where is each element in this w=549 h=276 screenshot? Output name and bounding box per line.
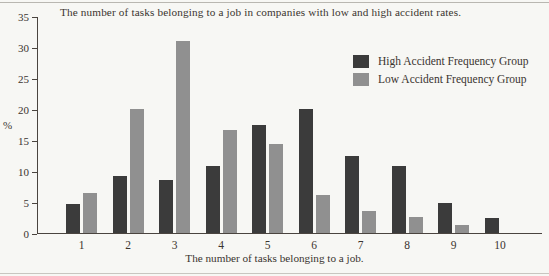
y-axis-tick-label: 25 bbox=[18, 73, 29, 85]
x-axis-tick-label: 4 bbox=[218, 239, 224, 251]
y-axis-tick-mark bbox=[32, 203, 37, 204]
bar-low-1 bbox=[83, 193, 97, 233]
bar-low-2 bbox=[130, 109, 144, 233]
y-axis-tick-label: 0 bbox=[24, 228, 30, 240]
bar-low-5 bbox=[269, 144, 283, 233]
bar-low-9 bbox=[455, 225, 469, 233]
legend-swatch-icon bbox=[353, 55, 369, 68]
x-axis-tick-label: 8 bbox=[404, 239, 410, 251]
bar-low-3 bbox=[176, 41, 190, 233]
bar-high-6 bbox=[299, 109, 313, 233]
x-axis-tick-label: 6 bbox=[311, 239, 317, 251]
bar-high-4 bbox=[206, 166, 220, 233]
y-axis-tick-mark bbox=[32, 17, 37, 18]
x-axis-tick-label: 2 bbox=[125, 239, 131, 251]
bar-high-3 bbox=[159, 180, 173, 233]
legend-label: High Accident Frequency Group bbox=[378, 55, 528, 67]
bar-low-7 bbox=[362, 211, 376, 233]
bar-group bbox=[392, 166, 423, 233]
y-axis-tick-label: 35 bbox=[18, 11, 29, 23]
x-axis-line bbox=[37, 233, 542, 234]
bar-high-10 bbox=[485, 218, 499, 234]
page-rule-bottom bbox=[0, 273, 549, 274]
bar-group bbox=[299, 109, 330, 233]
y-axis-title: % bbox=[3, 119, 12, 131]
y-axis-tick-mark bbox=[32, 234, 37, 235]
y-axis-line bbox=[37, 17, 38, 234]
bar-high-8 bbox=[392, 166, 406, 233]
x-axis-tick-label: 5 bbox=[265, 239, 271, 251]
bar-group bbox=[159, 41, 190, 233]
y-axis-tick-label: 30 bbox=[18, 42, 29, 54]
bar-group bbox=[66, 193, 97, 233]
chart-figure: The number of tasks belonging to a job i… bbox=[0, 0, 549, 276]
y-axis-tick-mark bbox=[32, 48, 37, 49]
y-axis-tick-label: 10 bbox=[18, 166, 29, 178]
legend-item: High Accident Frequency Group bbox=[353, 54, 528, 68]
bar-low-8 bbox=[409, 217, 423, 233]
bar-low-4 bbox=[223, 130, 237, 233]
x-axis-tick-label: 9 bbox=[451, 239, 457, 251]
y-axis-tick-mark bbox=[32, 172, 37, 173]
bar-group bbox=[206, 130, 237, 233]
bar-high-9 bbox=[438, 203, 452, 233]
x-axis-title: The number of tasks belonging to a job. bbox=[0, 252, 549, 264]
bar-high-7 bbox=[345, 156, 359, 233]
x-axis-tick-label: 1 bbox=[79, 239, 85, 251]
bar-low-6 bbox=[316, 195, 330, 233]
bar-high-1 bbox=[66, 204, 80, 233]
bar-group bbox=[485, 218, 516, 234]
bar-group bbox=[252, 125, 283, 233]
bar-high-5 bbox=[252, 125, 266, 233]
bar-high-2 bbox=[113, 176, 127, 233]
x-axis-tick-label: 10 bbox=[494, 239, 506, 251]
legend-swatch-icon bbox=[353, 73, 369, 86]
bar-group bbox=[113, 109, 144, 233]
y-axis-tick-mark bbox=[32, 141, 37, 142]
plot-area: 05101520253035 12345678910 bbox=[37, 17, 542, 234]
bar-group bbox=[345, 156, 376, 233]
y-axis-tick-mark bbox=[32, 79, 37, 80]
chart-legend: High Accident Frequency GroupLow Acciden… bbox=[353, 54, 528, 90]
legend-label: Low Accident Frequency Group bbox=[378, 73, 527, 85]
y-axis-tick-label: 5 bbox=[24, 197, 30, 209]
bar-group bbox=[438, 203, 469, 233]
x-axis-tick-label: 7 bbox=[358, 239, 364, 251]
y-axis-tick-label: 15 bbox=[18, 135, 29, 147]
page-rule-top bbox=[0, 2, 549, 3]
y-axis-tick-mark bbox=[32, 110, 37, 111]
x-axis-tick-label: 3 bbox=[172, 239, 178, 251]
y-axis-tick-label: 20 bbox=[18, 104, 29, 116]
legend-item: Low Accident Frequency Group bbox=[353, 72, 528, 86]
